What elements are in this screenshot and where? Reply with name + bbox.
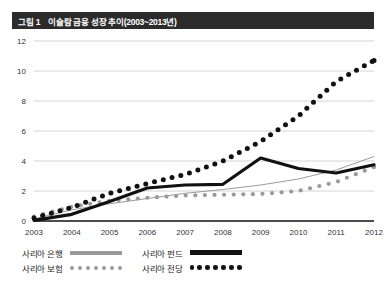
x-tick-label: 2008 bbox=[214, 228, 232, 237]
series-dot bbox=[126, 186, 131, 191]
series-dot bbox=[280, 190, 284, 194]
figure-title-bar: 그림 1 이슬람 금융 성장 추이(2003~2013년) bbox=[12, 12, 374, 29]
x-axis-tick-labels: 2003200420052006200720082009201020112012 bbox=[25, 228, 383, 237]
series-dot bbox=[203, 193, 207, 197]
x-tick-label: 2003 bbox=[25, 228, 43, 237]
series-dot bbox=[253, 142, 258, 147]
series-dot bbox=[92, 197, 97, 202]
series-dot bbox=[204, 164, 209, 169]
series-dot bbox=[49, 211, 54, 216]
series-dot bbox=[117, 188, 122, 193]
series-dot bbox=[193, 193, 197, 197]
legend-item-sharia-pawn[interactable]: 사리아 전당 bbox=[142, 262, 242, 274]
series-dot bbox=[354, 172, 358, 176]
series-dot bbox=[212, 193, 216, 197]
series-dot bbox=[135, 184, 140, 189]
series-dot bbox=[212, 161, 217, 166]
series-dot bbox=[66, 206, 71, 211]
gridlines-group bbox=[34, 41, 374, 191]
x-tick-label: 2012 bbox=[365, 228, 383, 237]
series-dot bbox=[161, 177, 166, 182]
series-dot bbox=[362, 63, 367, 68]
series-dot bbox=[276, 127, 281, 132]
series-dot bbox=[178, 173, 183, 178]
x-tick-label: 2004 bbox=[63, 228, 81, 237]
legend-swatch-sharia-pawn bbox=[190, 263, 242, 273]
series-dot bbox=[164, 195, 168, 199]
legend-label-sharia-bank: 사리아 은행 bbox=[22, 247, 63, 259]
series-dot bbox=[237, 150, 242, 155]
series-dot bbox=[145, 196, 149, 200]
series-dot bbox=[136, 196, 140, 200]
legend-item-sharia-insurance[interactable]: 사리아 보험 bbox=[22, 262, 142, 274]
y-tick-label: 4 bbox=[22, 157, 27, 166]
series-dot bbox=[143, 181, 148, 186]
series-dot bbox=[155, 195, 159, 199]
legend-item-sharia-bank[interactable]: 사리아 은행 bbox=[22, 247, 142, 259]
y-tick-label: 12 bbox=[17, 37, 26, 46]
series-dot bbox=[241, 192, 245, 196]
series-dot bbox=[58, 208, 63, 213]
series-dot bbox=[83, 200, 88, 205]
series-dot bbox=[363, 169, 367, 173]
legend-label-sharia-insurance: 사리아 보험 bbox=[22, 262, 63, 274]
series-dot bbox=[75, 203, 80, 208]
series-dot bbox=[324, 88, 329, 93]
series-dot bbox=[372, 58, 377, 63]
legend-label-sharia-pawn: 사리아 전당 bbox=[142, 262, 183, 274]
series-dot bbox=[184, 193, 188, 197]
legend-row-1: 사리아 은행 사리아 펀드 bbox=[22, 245, 362, 260]
legend-row-2: 사리아 보험 사리아 전당 bbox=[22, 260, 362, 275]
series-dot bbox=[229, 154, 234, 159]
legend-swatch-sharia-fund bbox=[190, 248, 242, 258]
series-dot bbox=[187, 170, 192, 175]
series-dot bbox=[354, 68, 359, 73]
series-dot bbox=[251, 192, 255, 196]
legend-swatch-sharia-bank bbox=[70, 248, 122, 258]
series-dot bbox=[222, 193, 226, 197]
series-dot bbox=[289, 189, 293, 193]
figure-index-label: 그림 1 bbox=[18, 15, 40, 27]
y-tick-label: 0 bbox=[22, 217, 27, 226]
y-tick-label: 6 bbox=[22, 127, 27, 136]
x-tick-label: 2010 bbox=[290, 228, 308, 237]
series-dot bbox=[346, 72, 351, 77]
series-dot bbox=[298, 112, 303, 117]
series-dot bbox=[317, 184, 321, 188]
chart-legend: 사리아 은행 사리아 펀드 사리아 보험 사리아 전당 bbox=[22, 245, 362, 281]
series-dot bbox=[311, 100, 316, 105]
series-dot bbox=[290, 117, 295, 122]
legend-swatch-sharia-insurance bbox=[70, 263, 122, 273]
series-dot bbox=[304, 106, 309, 111]
series-dot bbox=[308, 186, 312, 190]
x-tick-label: 2011 bbox=[328, 228, 346, 237]
series-dot bbox=[331, 82, 336, 87]
legend-item-sharia-fund[interactable]: 사리아 펀드 bbox=[142, 247, 242, 259]
series-dot bbox=[327, 182, 331, 186]
series-dot bbox=[318, 94, 323, 99]
y-tick-label: 8 bbox=[22, 97, 27, 106]
figure-container: 그림 1 이슬람 금융 성장 추이(2003~2013년) 024681012 … bbox=[0, 0, 386, 285]
x-tick-label: 2009 bbox=[252, 228, 270, 237]
y-tick-label: 2 bbox=[22, 187, 27, 196]
series-dot bbox=[261, 137, 266, 142]
y-tick-label: 10 bbox=[17, 67, 26, 76]
series-dot bbox=[299, 188, 303, 192]
legend-label-sharia-fund: 사리아 펀드 bbox=[142, 247, 183, 259]
x-tick-label: 2006 bbox=[138, 228, 156, 237]
series-dot bbox=[221, 158, 226, 163]
series-dot bbox=[268, 132, 273, 137]
series-dot bbox=[245, 146, 250, 151]
series-dot bbox=[170, 175, 175, 180]
series-dot bbox=[260, 192, 264, 196]
series-dot bbox=[195, 167, 200, 172]
series-dot bbox=[345, 176, 349, 180]
x-tick-label: 2005 bbox=[101, 228, 119, 237]
x-tick-label: 2007 bbox=[176, 228, 194, 237]
series-dot bbox=[283, 122, 288, 127]
line-chart-svg: 024681012 200320042005200620072008200920… bbox=[0, 33, 386, 238]
series-dot bbox=[270, 191, 274, 195]
series-dot bbox=[232, 192, 236, 196]
series-dot bbox=[174, 194, 178, 198]
series-dot bbox=[88, 202, 92, 206]
